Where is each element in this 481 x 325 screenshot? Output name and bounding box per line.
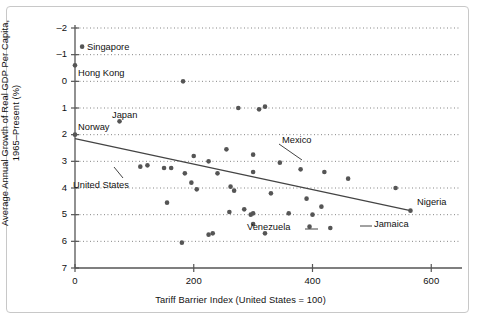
data-point [227,210,232,215]
data-point [286,211,291,216]
data-point [251,152,256,157]
data-point [162,166,167,171]
data-point [215,171,220,176]
data-point [206,232,211,237]
data-point [194,187,199,192]
data-point [242,207,247,212]
point-label-norway: Norway [78,122,110,132]
data-point [269,191,274,196]
data-point [228,184,233,189]
data-point [408,208,413,213]
y-axis-tick-label: 6 [45,235,67,246]
scatter-chart-figure: Average Annual Growth of Real GDP Per Ca… [0,0,481,325]
data-point [232,188,237,193]
leader-united-states [114,167,123,178]
y-axis-tick-label: 7 [45,262,67,273]
data-point [263,104,268,109]
y-axis-tick-label: 3 [45,155,67,166]
point-label-hong-kong: Hong Kong [78,68,125,78]
data-point [251,170,256,175]
data-point [189,180,194,185]
x-axis-tick-label: 400 [293,275,333,286]
y-axis-tick-label: –2 [45,22,67,33]
x-axis-tick-label: 0 [55,275,95,286]
data-point [310,212,315,217]
point-label-japan: Japan [112,110,137,120]
data-point [191,154,196,159]
data-point [319,204,324,209]
data-point [298,167,303,172]
data-point [210,231,215,236]
point-label-united-states: United States [73,180,129,190]
data-point [80,44,85,49]
data-point [181,79,186,84]
point-label-singapore: Singapore [87,42,129,52]
point-label-jamaica: Jamaica [374,219,409,229]
data-point [236,106,241,111]
data-point [393,186,398,191]
data-point [180,240,185,245]
data-point [322,170,327,175]
data-point [165,200,170,205]
data-point [73,132,78,137]
y-axis-tick-label: 1 [45,102,67,113]
data-point [73,63,78,68]
data-point [138,164,143,169]
data-point [251,211,256,216]
y-axis-tick-label: 4 [45,182,67,193]
leader-mexico [279,144,302,160]
y-axis-tick-label: –1 [45,48,67,59]
data-point [183,171,188,176]
data-point [257,107,262,112]
data-point [206,159,211,164]
data-point [224,147,229,152]
data-point [304,196,309,201]
point-label-venezuela: Venezuela [247,222,290,232]
y-axis-tick-label: 0 [45,75,67,86]
data-point [278,160,283,165]
data-point [145,163,150,168]
data-point [328,226,333,231]
x-axis-tick-label: 200 [174,275,214,286]
y-axis-tick-label: 5 [45,208,67,219]
point-label-nigeria: Nigeria [417,197,446,207]
data-point [169,166,174,171]
data-point [307,224,312,229]
y-axis-tick-label: 2 [45,128,67,139]
data-point [346,176,351,181]
point-label-mexico: Mexico [282,135,311,145]
x-axis-tick-label: 600 [411,275,451,286]
trend-line [75,139,410,211]
